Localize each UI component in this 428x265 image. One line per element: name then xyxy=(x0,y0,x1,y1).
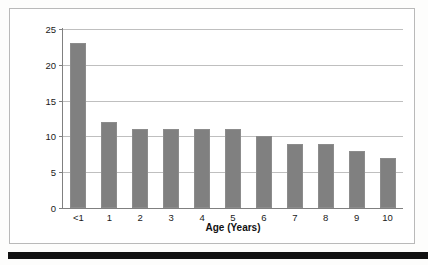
y-tick-mark xyxy=(59,65,63,66)
y-tick-label: 0 xyxy=(51,203,56,214)
gridline xyxy=(63,101,403,102)
gridline xyxy=(63,29,403,30)
y-tick-mark xyxy=(59,208,63,209)
bar xyxy=(101,122,117,208)
y-tick-mark xyxy=(59,172,63,173)
bar xyxy=(194,129,210,208)
y-tick-label: 20 xyxy=(45,59,56,70)
y-tick-mark xyxy=(59,29,63,30)
x-axis-title: Age (Years) xyxy=(63,222,403,233)
gridline xyxy=(63,65,403,66)
bar xyxy=(380,158,396,208)
y-tick-mark xyxy=(59,101,63,102)
bottom-black-rule xyxy=(8,252,428,259)
plot-area: 0510152025 <112345678910 xyxy=(63,29,403,208)
bar xyxy=(256,136,272,208)
y-tick-label: 25 xyxy=(45,24,56,35)
bar xyxy=(349,151,365,208)
x-axis-line xyxy=(62,208,403,209)
bar xyxy=(163,129,179,208)
bar xyxy=(287,144,303,208)
bar xyxy=(132,129,148,208)
bar xyxy=(318,144,334,208)
y-tick-label: 5 xyxy=(51,167,56,178)
y-tick-label: 15 xyxy=(45,95,56,106)
chart-frame: Rate per 1,000 Children 0510152025 <1123… xyxy=(9,8,415,244)
y-tick-label: 10 xyxy=(45,131,56,142)
page-background: Rate per 1,000 Children 0510152025 <1123… xyxy=(0,0,428,265)
y-tick-mark xyxy=(59,136,63,137)
bar xyxy=(225,129,241,208)
bar xyxy=(70,43,86,208)
y-axis-line xyxy=(62,28,63,209)
